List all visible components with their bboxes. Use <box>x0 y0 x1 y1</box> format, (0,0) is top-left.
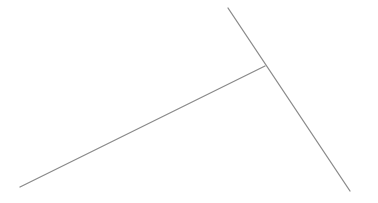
line-diagram <box>0 0 378 203</box>
diagram-background <box>0 0 378 203</box>
